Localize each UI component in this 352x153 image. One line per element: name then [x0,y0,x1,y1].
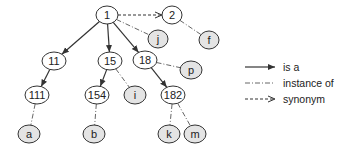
concept-node-15[interactable]: 15 [98,52,122,70]
concept-node-1[interactable]: 1 [96,6,118,24]
instance-node-p[interactable]: p [180,61,202,79]
concept-node-11[interactable]: 11 [42,52,66,70]
edge-is-a [62,22,100,55]
node-label: 182 [164,89,182,101]
legend-label: is a [283,61,300,73]
node-label: m [190,128,199,140]
edge-instance-of [95,104,97,125]
instance-node-i[interactable]: i [124,86,146,104]
edge-instance-of [116,69,130,87]
concept-node-182[interactable]: 182 [161,86,185,104]
node-label: 111 [29,89,46,101]
instance-node-k[interactable]: k [158,125,180,143]
edges-layer [31,15,201,126]
node-label: a [26,128,33,140]
node-label: 11 [48,55,59,67]
node-label: 18 [139,54,151,66]
edge-is-a [151,68,167,88]
legend-label: synonym [283,93,325,105]
concept-node-2[interactable]: 2 [162,6,182,24]
instance-node-f[interactable]: f [199,31,219,49]
edge-is-a [41,69,50,86]
node-label: b [91,128,97,140]
node-label: p [188,64,194,76]
edge-is-a [108,24,110,52]
edge-is-a [100,70,106,87]
edge-instance-of [178,103,191,126]
node-label: j [156,33,159,45]
edge-instance-of [157,63,181,68]
concept-node-154[interactable]: 154 [85,86,109,104]
concept-node-111[interactable]: 111 [25,86,49,104]
legend-label: instance of [283,77,334,89]
node-label: k [166,128,172,140]
edge-is-a [113,22,138,52]
instance-node-a[interactable]: a [18,125,40,143]
node-label: 154 [88,89,106,101]
legend: is ainstance ofsynonym [245,61,334,105]
edge-instance-of [180,20,201,34]
node-label: i [134,89,136,101]
node-label: 1 [104,9,110,21]
instance-node-j[interactable]: j [148,30,168,48]
edge-instance-of [31,104,35,125]
instance-node-b[interactable]: b [83,125,105,143]
taxonomy-diagram: 12jf111518p111154i182abkm is ainstance o… [0,0,352,153]
node-label: 15 [104,55,116,67]
instance-node-m[interactable]: m [184,125,206,143]
edge-instance-of [170,104,172,125]
node-label: 2 [169,9,175,21]
concept-node-18[interactable]: 18 [133,51,157,69]
